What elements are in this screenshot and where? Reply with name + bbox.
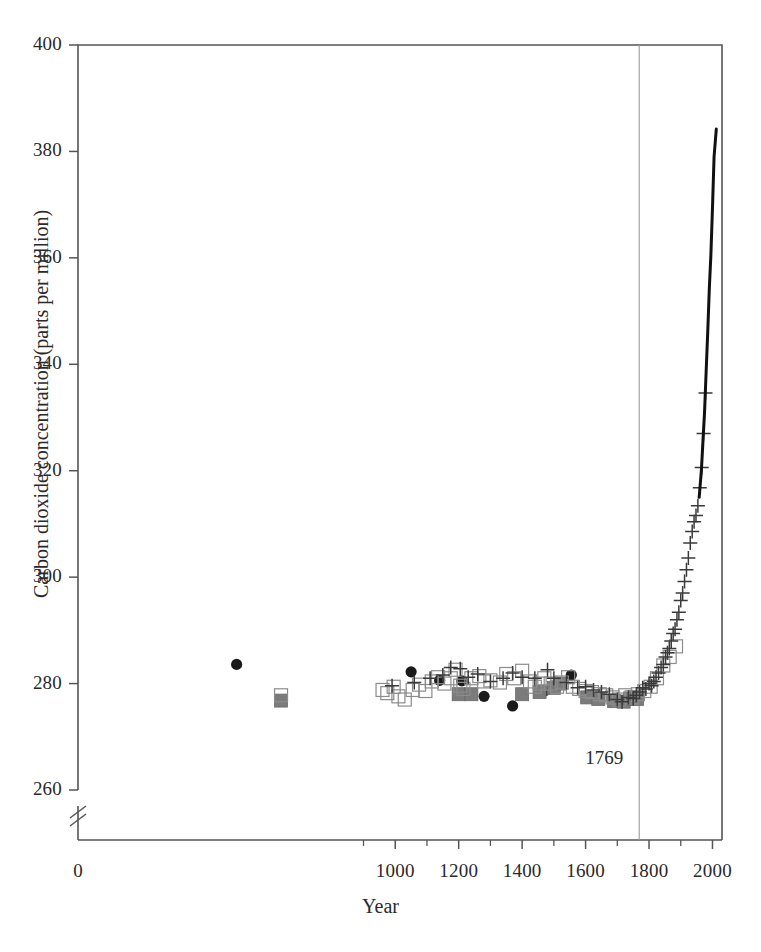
marker-plus xyxy=(528,671,542,685)
y-tick-label: 360 xyxy=(0,246,62,268)
co2-concentration-chart: Carbon dioxide concentration (parts per … xyxy=(0,0,761,952)
chart-canvas xyxy=(0,0,761,952)
marker-filled-circle xyxy=(478,691,489,702)
x-tick-label: 0 xyxy=(18,860,138,882)
marker-plus xyxy=(670,613,684,627)
y-tick-label: 260 xyxy=(0,778,62,800)
marker-plus xyxy=(678,574,692,588)
y-tick-label: 320 xyxy=(0,459,62,481)
y-tick-label: 380 xyxy=(0,139,62,161)
axes xyxy=(69,45,722,849)
y-tick-label: 340 xyxy=(0,352,62,374)
x-axis-title: Year xyxy=(0,895,761,918)
marker-filled-circle xyxy=(507,700,518,711)
annotation-1769-label: 1769 xyxy=(585,747,623,769)
x-tick-label: 2000 xyxy=(652,860,761,882)
marker-filled-square xyxy=(275,694,288,707)
marker-plus xyxy=(691,499,705,513)
data-series xyxy=(231,129,716,711)
marker-plus xyxy=(679,563,693,577)
marker-plus xyxy=(676,586,690,600)
y-tick-label: 280 xyxy=(0,672,62,694)
marker-plus xyxy=(672,605,686,619)
marker-filled-circle xyxy=(231,659,242,670)
series-ice-core-plus-markers xyxy=(385,386,712,709)
marker-filled-square xyxy=(516,688,529,701)
y-tick-label: 400 xyxy=(0,33,62,55)
marker-plus xyxy=(674,594,688,608)
marker-plus xyxy=(685,524,699,538)
marker-plus xyxy=(683,536,697,550)
y-tick-label: 300 xyxy=(0,565,62,587)
marker-plus xyxy=(687,515,701,529)
marker-plus xyxy=(681,551,695,565)
marker-plus xyxy=(664,634,678,648)
mauna-loa-curve xyxy=(699,129,716,497)
marker-plus xyxy=(541,663,555,677)
marker-plus xyxy=(689,508,703,522)
series-mauna-loa-line xyxy=(699,129,716,497)
